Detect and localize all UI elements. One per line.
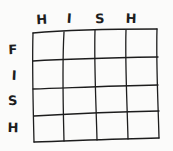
hand-drawn-grid-figure: HISH FISH bbox=[0, 0, 173, 151]
grid-line-vertical-1 bbox=[63, 32, 64, 141]
grid-line-vertical-4 bbox=[157, 29, 159, 138]
column-label-s-2: S bbox=[95, 11, 105, 26]
row-label-h-3: H bbox=[8, 120, 19, 135]
column-labels: HISH bbox=[36, 11, 137, 27]
row-label-f-0: F bbox=[8, 42, 17, 57]
column-label-h-3: H bbox=[125, 11, 136, 26]
grid-line-vertical-0 bbox=[33, 33, 34, 142]
grid-line-vertical-3 bbox=[126, 30, 128, 139]
column-label-h-0: H bbox=[36, 12, 48, 28]
column-label-i-1: I bbox=[66, 11, 72, 26]
row-label-i-1: I bbox=[11, 68, 17, 83]
sketch-canvas: HISH FISH bbox=[0, 0, 173, 151]
row-labels: FISH bbox=[8, 42, 19, 135]
grid-line-vertical-2 bbox=[95, 30, 97, 140]
row-label-s-2: S bbox=[8, 93, 18, 108]
